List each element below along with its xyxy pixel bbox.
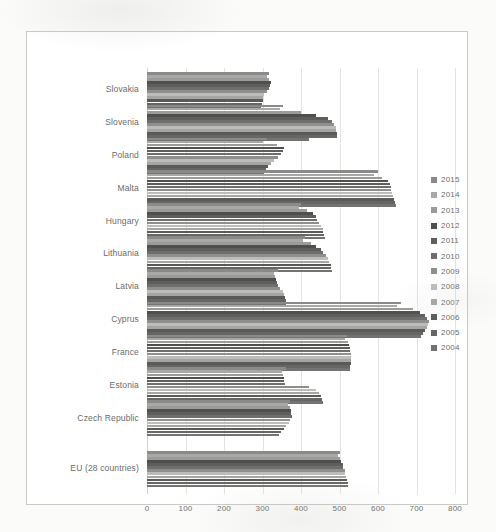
legend-label: 2010 bbox=[441, 252, 460, 261]
legend-label: 2004 bbox=[441, 343, 460, 352]
legend-swatch-icon bbox=[431, 223, 437, 229]
x-tick-label: 200 bbox=[217, 504, 231, 513]
legend-label: 2011 bbox=[441, 236, 459, 245]
legend-swatch-icon bbox=[431, 345, 437, 351]
x-tick-label: 500 bbox=[333, 504, 347, 513]
legend-label: 2015 bbox=[441, 175, 460, 184]
legend-swatch-icon bbox=[431, 330, 437, 336]
bar bbox=[147, 485, 348, 488]
x-tick-label: 0 bbox=[145, 504, 150, 513]
legend-swatch-icon bbox=[431, 268, 437, 274]
legend-swatch-icon bbox=[431, 314, 437, 320]
legend-swatch-icon bbox=[431, 284, 437, 290]
legend-item[interactable]: 2015 bbox=[431, 172, 491, 187]
bar-group bbox=[147, 105, 455, 142]
x-tick-label: 600 bbox=[371, 504, 385, 513]
bar-group bbox=[147, 367, 455, 404]
bar-group bbox=[147, 269, 455, 306]
bar-group bbox=[147, 138, 455, 175]
bar-group bbox=[147, 335, 455, 372]
x-tick-label: 300 bbox=[256, 504, 270, 513]
category-label: Lithuania bbox=[103, 248, 147, 258]
bar-group bbox=[147, 400, 455, 437]
legend-label: 2008 bbox=[441, 282, 460, 291]
category-label: Czech Republic bbox=[77, 413, 147, 423]
legend-swatch-icon bbox=[431, 192, 437, 198]
category-label: Hungary bbox=[106, 216, 147, 226]
category-label: Estonia bbox=[110, 380, 147, 390]
legend-item[interactable]: 2012 bbox=[431, 218, 491, 233]
chart-legend: 2015201420132012201120102009200820072006… bbox=[431, 172, 491, 356]
bar-group bbox=[147, 72, 455, 109]
x-tick-label: 100 bbox=[179, 504, 193, 513]
plot-area: SlovakiaSloveniaPolandMaltaHungaryLithua… bbox=[147, 68, 455, 498]
legend-label: 2009 bbox=[441, 267, 460, 276]
legend-item[interactable]: 2014 bbox=[431, 187, 491, 202]
bar bbox=[147, 434, 279, 437]
legend-swatch-icon bbox=[431, 253, 437, 259]
legend-item[interactable]: 2011 bbox=[431, 233, 491, 248]
category-label: Poland bbox=[112, 150, 147, 160]
legend-label: 2014 bbox=[441, 190, 460, 199]
legend-item[interactable]: 2008 bbox=[431, 279, 491, 294]
legend-label: 2006 bbox=[441, 313, 460, 322]
bar-group bbox=[147, 302, 455, 339]
x-tick-label: 800 bbox=[448, 504, 462, 513]
legend-item[interactable]: 2005 bbox=[431, 325, 491, 340]
category-label: Slovakia bbox=[106, 84, 147, 94]
legend-item[interactable]: 2007 bbox=[431, 294, 491, 309]
legend-label: 2007 bbox=[441, 298, 460, 307]
category-label: France bbox=[112, 347, 147, 357]
legend-item[interactable]: 2013 bbox=[431, 203, 491, 218]
category-label: Latvia bbox=[115, 281, 147, 291]
legend-item[interactable]: 2009 bbox=[431, 264, 491, 279]
x-tick-label: 400 bbox=[294, 504, 308, 513]
legend-label: 2013 bbox=[441, 206, 460, 215]
legend-swatch-icon bbox=[431, 177, 437, 183]
category-label: Slovenia bbox=[105, 117, 147, 127]
legend-item[interactable]: 2010 bbox=[431, 248, 491, 263]
x-tick-label: 700 bbox=[410, 504, 424, 513]
legend-swatch-icon bbox=[431, 299, 437, 305]
legend-swatch-icon bbox=[431, 207, 437, 213]
bar-group bbox=[147, 170, 455, 207]
legend-swatch-icon bbox=[431, 238, 437, 244]
bar-group bbox=[147, 451, 455, 488]
category-label: Malta bbox=[117, 183, 147, 193]
chart-frame: SlovakiaSloveniaPolandMaltaHungaryLithua… bbox=[26, 31, 468, 505]
legend-label: 2012 bbox=[441, 221, 460, 230]
legend-item[interactable]: 2004 bbox=[431, 340, 491, 355]
category-label: EU (28 countries) bbox=[70, 463, 147, 473]
legend-label: 2005 bbox=[441, 328, 460, 337]
category-label: Cyprus bbox=[111, 314, 147, 324]
bar-group bbox=[147, 203, 455, 240]
bar-group bbox=[147, 236, 455, 273]
legend-item[interactable]: 2006 bbox=[431, 310, 491, 325]
